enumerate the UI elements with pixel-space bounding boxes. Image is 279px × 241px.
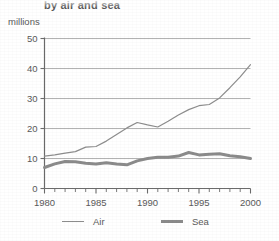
chart-legend: Air Sea xyxy=(0,216,279,236)
legend-swatch-sea-icon xyxy=(161,220,183,223)
legend-item-sea: Sea xyxy=(161,216,209,227)
legend-item-air: Air xyxy=(62,216,105,227)
y-tick-label: 50 xyxy=(27,33,38,44)
x-tick-label: 1985 xyxy=(85,197,106,208)
x-tick-label: 1990 xyxy=(137,197,158,208)
y-tick-label: 0 xyxy=(32,183,37,194)
legend-swatch-air-icon xyxy=(62,221,84,222)
y-tick-label: 10 xyxy=(27,153,38,164)
x-tick-label: 2000 xyxy=(240,197,261,208)
x-tick-label: 1995 xyxy=(188,197,209,208)
series-line-air xyxy=(45,65,251,157)
chart-page: by air and sea millions 0102030405019801… xyxy=(0,0,279,241)
series-line-sea xyxy=(45,153,251,168)
legend-label-sea: Sea xyxy=(192,216,209,227)
y-tick-label: 40 xyxy=(27,63,38,74)
legend-label-air: Air xyxy=(93,216,105,227)
line-chart-plot: 0102030405019801985199019952000 xyxy=(0,0,279,215)
x-tick-label: 1980 xyxy=(34,197,55,208)
y-tick-label: 20 xyxy=(27,123,38,134)
y-tick-label: 30 xyxy=(27,93,38,104)
